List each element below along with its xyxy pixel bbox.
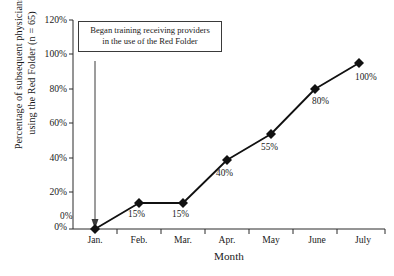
line-chart-figure: Percentage of subsequent physicians usin… bbox=[0, 0, 394, 276]
data-point-july[interactable] bbox=[354, 58, 364, 68]
data-point-feb[interactable] bbox=[134, 198, 144, 208]
series-line bbox=[95, 63, 359, 229]
y-tick-marks bbox=[69, 20, 73, 229]
x-tick-marks bbox=[117, 229, 385, 234]
data-point-jan[interactable] bbox=[90, 224, 100, 234]
plot-area bbox=[0, 0, 394, 276]
annotation-arrow bbox=[92, 61, 99, 229]
